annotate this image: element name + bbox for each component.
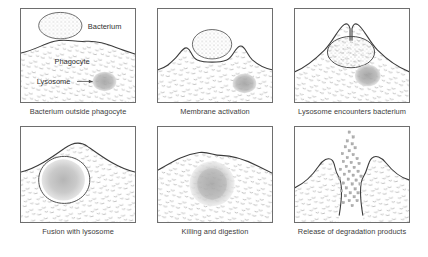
panel-4-caption: Fusion with lysosome <box>42 227 114 236</box>
panel-6-caption: Release of degradation products <box>298 227 406 236</box>
panel-3-frame <box>294 8 410 103</box>
lysosome-granule <box>93 72 117 92</box>
panel-2-caption: Membrane activation <box>180 107 250 116</box>
phagocytosis-figure: Bacterium Phagocyte Lysosome Bacterium o… <box>0 0 428 257</box>
panel-release-of-degradation-products: Release of degradation products <box>294 126 410 238</box>
panel-4-frame <box>20 126 136 223</box>
panel-bacterium-outside-phagocyte: Bacterium Phagocyte Lysosome Bacterium o… <box>20 8 136 118</box>
panel-lysosome-encounters-bacterium: Lysosome encounters bacterium <box>294 8 410 118</box>
phagosome-with-bacterium <box>327 36 374 67</box>
bacterium-shape <box>39 12 82 38</box>
bacterium-label: Bacterium <box>88 22 122 31</box>
panel-fusion-with-lysosome: Fusion with lysosome <box>20 126 136 238</box>
panel-3-caption: Lysosome encounters bacterium <box>298 107 406 116</box>
panel-1-caption: Bacterium outside phagocyte <box>30 107 127 116</box>
panel-membrane-activation: Membrane activation <box>157 8 273 118</box>
lysosome-label: Lysosome <box>37 77 71 86</box>
lysosome-granule <box>233 74 257 94</box>
bacterium-shape <box>192 30 231 59</box>
panel-5-caption: Killing and digestion <box>182 227 249 236</box>
digested-mass <box>189 161 234 206</box>
panel-5-frame <box>157 126 273 223</box>
panel-2-frame <box>157 8 273 103</box>
panel-killing-and-digestion: Killing and digestion <box>157 126 273 238</box>
panel-6-frame <box>294 126 410 223</box>
phagolysosome <box>39 156 90 203</box>
phagocyte-label: Phagocyte <box>54 57 89 66</box>
panel-1-frame: Bacterium Phagocyte Lysosome <box>20 8 136 103</box>
phagocyte-body-right <box>352 151 409 222</box>
lysosome-granule <box>355 65 381 87</box>
panel-grid: Bacterium Phagocyte Lysosome Bacterium o… <box>20 8 410 253</box>
phagocyte-body <box>21 36 135 102</box>
